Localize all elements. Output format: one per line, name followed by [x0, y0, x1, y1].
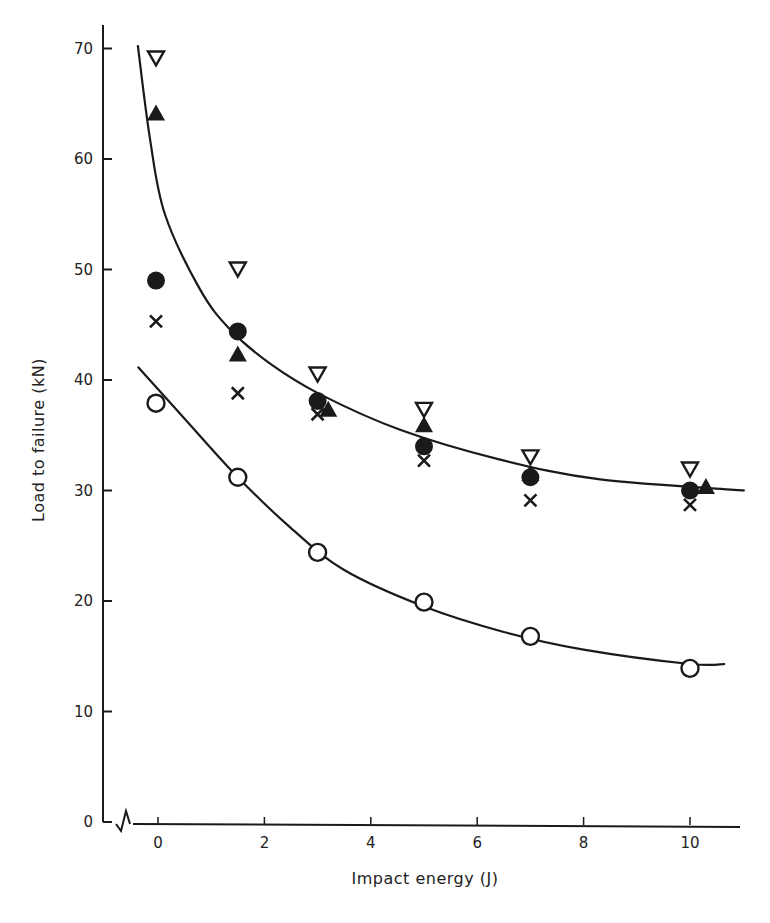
y-axis: 010203040506070: [74, 25, 112, 831]
open-triangle-down-icon: [416, 403, 432, 417]
x-tick-label: 6: [472, 834, 482, 852]
open-triangle-down-icon: [230, 263, 246, 277]
y-tick-label: 50: [74, 261, 93, 279]
filled-triangle-up-icon: [415, 416, 433, 432]
cross-icon: [684, 499, 696, 511]
filled-circle-icon: [147, 272, 165, 290]
filled-circle-icon: [415, 437, 433, 455]
filled-circle-icon: [521, 468, 539, 486]
open-circle-icon: [309, 544, 326, 561]
cross-icon: [524, 494, 536, 506]
filled-circle-icon: [681, 482, 699, 500]
x-tick-label: 8: [579, 834, 589, 852]
cross-icon: [418, 455, 430, 467]
open-circle-icon: [416, 594, 433, 611]
open-circle-icon: [522, 628, 539, 645]
cross-icon: [150, 315, 162, 327]
y-tick-label: 10: [74, 703, 93, 721]
axis-break-icon: [116, 811, 130, 831]
y-tick-label: 0: [83, 813, 93, 831]
filled-circle-icon: [309, 392, 327, 410]
y-tick-label: 60: [74, 150, 93, 168]
open-circle-icon: [682, 660, 699, 677]
filled-triangle-up-icon: [229, 345, 247, 361]
open-triangle-down-icon: [522, 450, 538, 464]
y-tick-label: 40: [74, 371, 93, 389]
x-axis-title: Impact energy (J): [352, 869, 499, 888]
x-tick-label: 0: [153, 834, 163, 852]
x-axis: 0246810: [116, 811, 740, 852]
open-triangle-down-icon: [148, 51, 164, 65]
open-triangle-down-icon: [310, 367, 326, 381]
y-tick-label: 20: [74, 592, 93, 610]
cross-icon: [232, 387, 244, 399]
open-circle-icon: [229, 469, 246, 486]
y-tick-label: 70: [74, 40, 93, 58]
y-tick-label: 30: [74, 482, 93, 500]
y-axis-title: Load to failure (kN): [29, 358, 48, 522]
fit-curve: [138, 367, 725, 665]
fit-curves: [138, 45, 745, 665]
filled-triangle-up-icon: [697, 478, 715, 494]
fit-curve: [138, 45, 745, 490]
open-triangle-down-icon: [682, 463, 698, 477]
x-tick-label: 2: [260, 834, 270, 852]
x-tick-label: 10: [680, 834, 699, 852]
data-markers: [147, 51, 715, 676]
chart: 010203040506070 0246810 Load to failure …: [0, 0, 770, 923]
open-circle-icon: [148, 395, 165, 412]
filled-triangle-up-icon: [147, 105, 165, 121]
filled-circle-icon: [229, 322, 247, 340]
x-tick-label: 4: [366, 834, 376, 852]
